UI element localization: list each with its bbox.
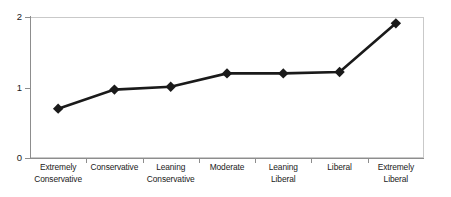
- y-axis-line: [30, 16, 31, 159]
- x-category-label-line: Conservative: [86, 162, 142, 174]
- x-axis-category-labels: ExtremelyConservativeConservativeLeaning…: [30, 162, 424, 196]
- x-category-label: Conservative: [86, 162, 142, 196]
- y-tick-label-0: 0: [6, 153, 22, 163]
- x-category-label-line: Moderate: [199, 162, 255, 174]
- x-category-label-line: Conservative: [143, 174, 199, 186]
- x-category-label: Liberal: [311, 162, 367, 196]
- y-tick-0: [25, 158, 30, 159]
- x-axis-line: [30, 158, 424, 159]
- x-category-label-line: Leaning: [143, 162, 199, 174]
- x-category-label-line: Extremely: [30, 162, 86, 174]
- x-category-label: LeaningLiberal: [255, 162, 311, 196]
- x-category-label: ExtremelyConservative: [30, 162, 86, 196]
- x-category-label: ExtremelyLiberal: [368, 162, 424, 196]
- y-tick-label-2: 2: [6, 12, 22, 22]
- x-category-label-line: Liberal: [311, 162, 367, 174]
- x-category-label-line: Liberal: [368, 174, 424, 186]
- y-tick-label-1: 1: [6, 83, 22, 93]
- x-category-label: LeaningConservative: [143, 162, 199, 196]
- y-tick-2: [25, 17, 30, 18]
- x-category-label-line: Extremely: [368, 162, 424, 174]
- x-category-label-line: Leaning: [255, 162, 311, 174]
- x-category-label: Moderate: [199, 162, 255, 196]
- y-tick-1: [25, 88, 30, 89]
- x-category-label-line: Liberal: [255, 174, 311, 186]
- plot-area: [30, 17, 424, 158]
- x-category-label-line: Conservative: [30, 174, 86, 186]
- line-chart: 012 ExtremelyConservativeConservativeLea…: [0, 0, 451, 197]
